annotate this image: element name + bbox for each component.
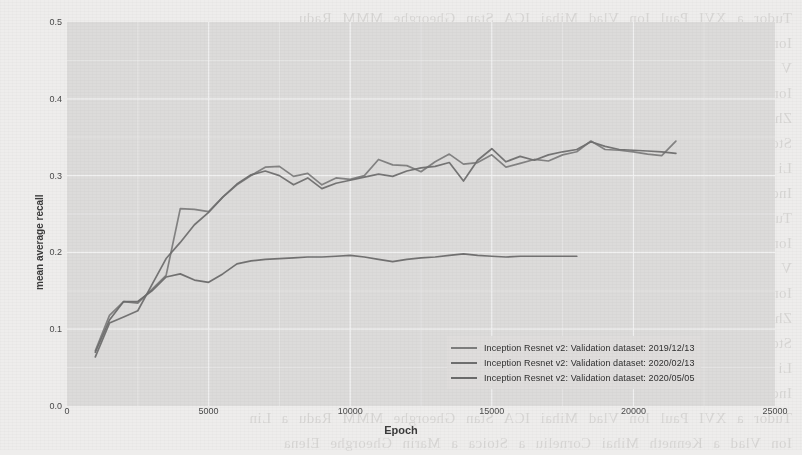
x-tick-label: 5000 — [179, 406, 239, 416]
legend-label: Inception Resnet v2: Validation dataset:… — [484, 358, 695, 368]
x-tick-label: 10000 — [320, 406, 380, 416]
legend-swatch-line-icon — [451, 362, 477, 364]
y-axis-title-text: mean average recall — [34, 194, 45, 290]
series-line-2 — [95, 142, 676, 357]
y-axis-title: mean average recall — [20, 120, 38, 300]
x-axis-title-text: Epoch — [384, 424, 418, 436]
x-axis-ticks: 0500010000150002000025000 — [0, 406, 802, 420]
y-tick-label: 0.1 — [22, 324, 62, 334]
x-tick-label: 20000 — [603, 406, 663, 416]
series-lines — [95, 141, 676, 357]
legend-item: Inception Resnet v2: Validation dataset:… — [451, 355, 695, 370]
x-tick-label: 25000 — [745, 406, 802, 416]
y-tick-label: 0.4 — [22, 94, 62, 104]
legend-item: Inception Resnet v2: Validation dataset:… — [451, 340, 695, 355]
legend-label: Inception Resnet v2: Validation dataset:… — [484, 343, 695, 353]
x-tick-label: 15000 — [462, 406, 522, 416]
legend-swatch-line-icon — [451, 377, 477, 379]
chart-legend: Inception Resnet v2: Validation dataset:… — [447, 336, 701, 389]
legend-item: Inception Resnet v2: Validation dataset:… — [451, 370, 695, 385]
y-tick-label: 0.5 — [22, 17, 62, 27]
x-axis-title: Epoch — [0, 424, 802, 436]
x-tick-label: 0 — [37, 406, 97, 416]
legend-label: Inception Resnet v2: Validation dataset:… — [484, 373, 695, 383]
legend-swatch-line-icon — [451, 347, 477, 349]
series-line-1 — [95, 141, 676, 351]
